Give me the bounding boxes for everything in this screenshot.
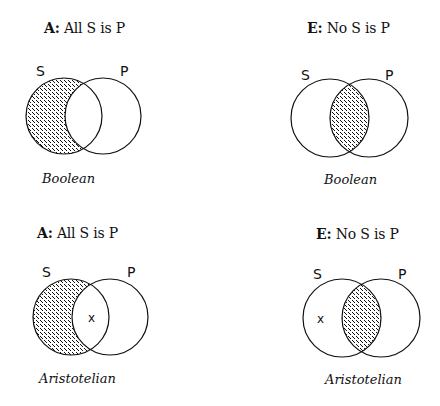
venn-boolean-e: S P bbox=[291, 67, 408, 157]
label-s: S bbox=[42, 264, 51, 280]
venn-boolean-a: S P bbox=[26, 63, 141, 154]
existence-mark-x: x bbox=[88, 311, 95, 325]
label-s: S bbox=[301, 67, 310, 83]
label-p: P bbox=[120, 63, 128, 79]
label-p: P bbox=[385, 67, 393, 83]
label-s: S bbox=[36, 63, 45, 79]
existence-mark-x: x bbox=[317, 312, 324, 326]
venn-diagrams: S P S P S P x S P x bbox=[0, 0, 440, 406]
label-p: P bbox=[398, 266, 406, 282]
venn-aristotelian-e: S P x bbox=[303, 266, 420, 357]
venn-aristotelian-a: S P x bbox=[33, 264, 148, 355]
label-p: P bbox=[127, 264, 135, 280]
label-s: S bbox=[313, 266, 322, 282]
